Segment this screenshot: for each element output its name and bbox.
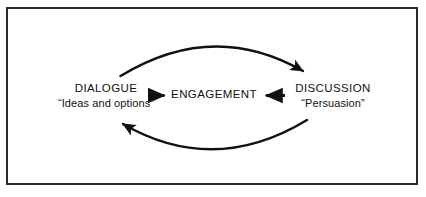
diagram-canvas: DIALOGUE “Ideas and options” ENGAGEMENT …: [0, 0, 426, 197]
node-discussion-title: DISCUSSION: [278, 82, 388, 96]
node-discussion-subtitle: “Persuasion”: [278, 97, 388, 110]
node-dialogue-title: DIALOGUE: [48, 82, 164, 96]
node-dialogue: DIALOGUE “Ideas and options”: [48, 82, 164, 110]
node-dialogue-subtitle: “Ideas and options”: [48, 97, 164, 110]
node-engagement-title: ENGAGEMENT: [168, 88, 260, 102]
node-engagement: ENGAGEMENT: [168, 88, 260, 102]
node-discussion: DISCUSSION “Persuasion”: [278, 82, 388, 110]
